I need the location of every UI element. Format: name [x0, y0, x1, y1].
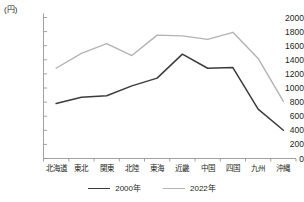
y-axis-tick-label: 0	[266, 155, 304, 164]
x-axis-tick-label-9: 九州	[251, 164, 265, 173]
y-axis-tick-label: 2000	[266, 14, 304, 23]
x-axis-tick-label-7: 中国	[201, 164, 215, 173]
y-axis-tick-label: 1400	[266, 56, 304, 65]
y-axis-tick-label: 1000	[266, 84, 304, 93]
series-line-1	[56, 54, 283, 130]
chart-legend: 2000年2022年	[0, 184, 304, 193]
x-axis-tick-label-10: 沖縄	[276, 164, 290, 173]
legend-label: 2022年	[190, 184, 216, 193]
x-axis-tick-label-1: 北海道	[46, 164, 67, 173]
legend-label: 2000年	[115, 184, 141, 193]
legend-item-1[interactable]: 2000年	[88, 184, 141, 193]
x-axis-tick-label-2: 東北	[74, 164, 88, 173]
y-axis-tick-label: 1600	[266, 42, 304, 51]
line-chart: (円) 020040060080010001200140016001800200…	[0, 0, 304, 202]
x-axis-tick-label-3: 関東	[100, 164, 114, 173]
y-axis-tick-label: 1800	[266, 28, 304, 37]
legend-item-2[interactable]: 2022年	[163, 184, 216, 193]
legend-line-swatch	[163, 188, 185, 189]
x-axis-tick-label-6: 近畿	[175, 164, 189, 173]
y-axis-tick-label: 600	[266, 112, 304, 121]
y-axis-tick-label: 400	[266, 126, 304, 135]
y-axis-tick-label: 800	[266, 98, 304, 107]
legend-line-swatch	[88, 188, 110, 189]
x-axis-tick-label-4: 北陸	[125, 164, 139, 173]
y-axis-tick-label: 1200	[266, 70, 304, 79]
x-axis-tick-label-5: 東海	[150, 164, 164, 173]
x-axis-tick-label-8: 四国	[226, 164, 240, 173]
y-axis-tick-label: 200	[266, 140, 304, 149]
